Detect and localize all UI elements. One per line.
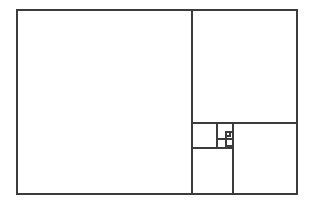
- figure-background: [0, 0, 315, 203]
- fibonacci-subdivision-svg: [0, 0, 315, 203]
- golden-ratio-figure: [0, 0, 315, 203]
